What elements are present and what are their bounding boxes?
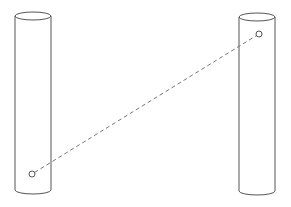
dashed-connector-line <box>35 36 257 173</box>
right-cylinder <box>239 13 275 195</box>
cylinder-top-ellipse <box>15 12 51 20</box>
left-cylinder <box>15 12 51 194</box>
right-point-marker <box>256 31 262 37</box>
cylinder-bottom-arc <box>15 190 51 194</box>
diagram-canvas <box>0 0 291 207</box>
left-point-marker <box>29 171 35 177</box>
cylinder-bottom-arc <box>239 191 275 195</box>
cylinder-top-ellipse <box>239 13 275 21</box>
cylinders <box>15 12 275 195</box>
